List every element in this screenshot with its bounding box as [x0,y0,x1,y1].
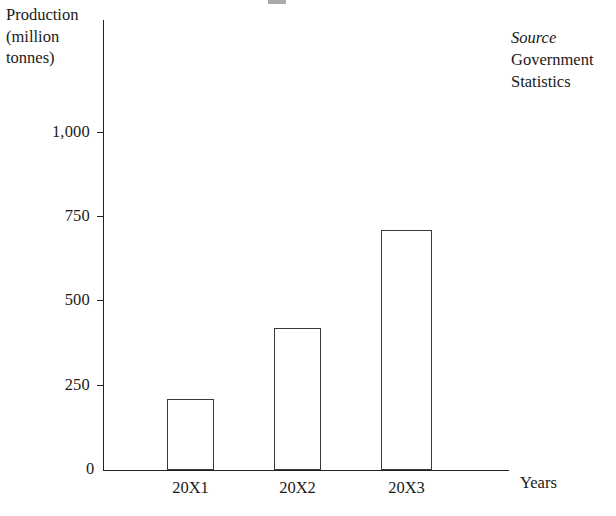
x-category-label-20x1: 20X1 [150,479,231,497]
y-axis-title: Production (million tonnes) [6,4,100,69]
bar-20x3 [381,230,432,470]
cropped-header-artifact [268,0,286,4]
source-line-2: Statistics [511,71,593,93]
y-tick-label-250: 250 [0,377,90,393]
y-tick-label-1000: 1,000 [0,124,90,140]
y-tick-750 [97,216,104,217]
y-tick-250 [97,385,104,386]
y-axis-title-line-2: (million [6,26,100,48]
y-axis-title-line-3: tonnes) [6,47,100,69]
y-axis-origin-label: 0 [86,461,94,477]
y-tick-label-500: 500 [0,292,90,308]
x-axis-line [103,470,509,471]
x-category-label-20x2: 20X2 [257,479,338,497]
y-tick-500 [97,300,104,301]
source-heading: Source [511,27,593,49]
x-category-label-20x3: 20X3 [366,479,447,497]
source-line-1: Government [511,49,593,71]
x-axis-title: Years [520,474,557,492]
y-axis-line [103,20,104,470]
source-annotation: Source Government Statistics [511,27,593,93]
y-tick-1000 [97,132,104,133]
y-tick-label-750: 750 [0,208,90,224]
y-axis-title-line-1: Production [6,4,100,26]
bar-chart-figure: Production (million tonnes) Source Gover… [0,0,616,516]
bar-20x1 [167,399,214,470]
bar-20x2 [274,328,321,470]
